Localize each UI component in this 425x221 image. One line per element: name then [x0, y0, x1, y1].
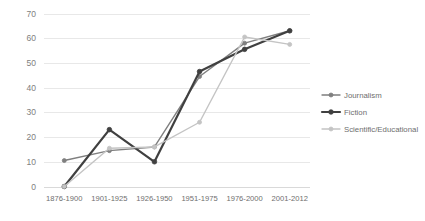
- y-tick-label: 20: [27, 132, 37, 142]
- data-point: [288, 42, 292, 46]
- y-tick-label: 60: [27, 33, 37, 43]
- series-line: [64, 31, 289, 161]
- chart-legend: JournalismFictionScientific/Educational: [322, 91, 418, 134]
- y-tick-label: 70: [27, 9, 37, 19]
- x-axis-category-labels: 1876-19001901-19251926-19501951-19751976…: [46, 194, 308, 203]
- data-point: [152, 145, 156, 149]
- x-category-label: 1926-1950: [136, 194, 172, 203]
- legend-label: Scientific/Educational: [344, 125, 418, 134]
- data-series-group: [62, 29, 292, 189]
- legend-item-journalism[interactable]: Journalism: [322, 91, 382, 100]
- legend-item-fiction[interactable]: Fiction: [322, 108, 367, 117]
- y-axis-tick-labels: 010203040506070: [27, 9, 37, 192]
- series-journalism: [62, 29, 291, 163]
- data-point: [287, 29, 292, 34]
- line-chart: 010203040506070 1876-19001901-19251926-1…: [0, 0, 425, 221]
- data-point: [243, 35, 247, 39]
- data-point: [197, 69, 202, 74]
- chart-canvas: 010203040506070 1876-19001901-19251926-1…: [0, 0, 425, 221]
- y-tick-label: 50: [27, 58, 37, 68]
- data-point: [62, 159, 66, 163]
- data-point: [243, 41, 247, 45]
- x-category-label: 1976-2000: [226, 194, 262, 203]
- data-point: [62, 185, 66, 189]
- y-tick-label: 10: [27, 157, 37, 167]
- data-point: [107, 127, 112, 132]
- data-point: [107, 146, 111, 150]
- series-line: [64, 31, 289, 187]
- data-point: [242, 47, 247, 52]
- legend-marker: [329, 93, 333, 97]
- legend-item-scientific-educational[interactable]: Scientific/Educational: [322, 125, 418, 134]
- legend-label: Fiction: [344, 108, 367, 117]
- y-tick-label: 0: [31, 182, 36, 192]
- series-fiction: [62, 29, 292, 189]
- x-category-label: 2001-2012: [272, 194, 308, 203]
- y-tick-label: 40: [27, 83, 37, 93]
- data-point: [152, 159, 157, 164]
- x-category-label: 1876-1900: [46, 194, 82, 203]
- x-category-label: 1951-1975: [181, 194, 217, 203]
- x-category-label: 1901-1925: [91, 194, 127, 203]
- y-tick-label: 30: [27, 107, 37, 117]
- legend-marker: [329, 110, 334, 115]
- legend-marker: [329, 127, 333, 131]
- legend-label: Journalism: [344, 91, 382, 100]
- data-point: [198, 120, 202, 124]
